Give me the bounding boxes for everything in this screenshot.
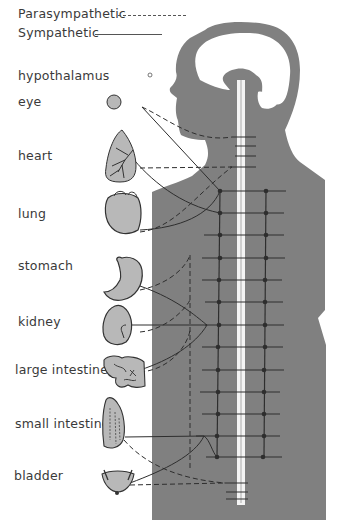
small-intestine-icon — [103, 398, 125, 448]
bladder-icon — [102, 470, 134, 495]
kidney-icon — [103, 305, 132, 344]
eye-icon — [107, 95, 121, 109]
lung-icon — [106, 130, 136, 182]
heart-icon — [105, 191, 141, 233]
nervous-system-diagram — [0, 0, 343, 522]
hypothalamus-icon — [148, 73, 152, 77]
large-intestine-icon — [104, 356, 145, 387]
stomach-icon — [104, 257, 142, 300]
